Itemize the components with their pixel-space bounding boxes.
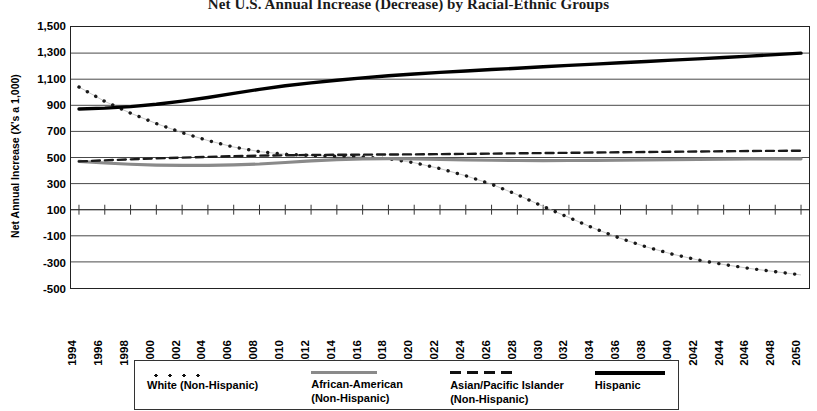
x-tick-label: 2016 xyxy=(355,296,369,354)
x-tick-label: 2014 xyxy=(330,296,344,354)
legend-label: White (Non-Hispanic) xyxy=(147,379,311,393)
series-canvas xyxy=(71,27,809,288)
y-tick-label: -500 xyxy=(18,283,66,295)
legend-label: Asian/Pacific Islander (Non-Hispanic) xyxy=(450,379,593,406)
x-tick-label: 2008 xyxy=(252,296,266,354)
legend-item-asian-pacific-islander: Asian/Pacific Islander (Non-Hispanic) xyxy=(450,368,593,406)
dashed-line-swatch-icon xyxy=(450,368,512,377)
legend-item-white: White (Non-Hispanic) xyxy=(147,368,311,393)
y-tick-label: 700 xyxy=(18,125,66,137)
x-axis-tick-labels: 1994199619982000200220042006200820102012… xyxy=(70,292,810,354)
x-tick-label: 2006 xyxy=(226,296,240,354)
x-tick-label: 2034 xyxy=(588,296,602,354)
y-tick-label: -100 xyxy=(18,230,66,242)
x-tick-label: 2038 xyxy=(640,296,654,354)
y-tick-label: 900 xyxy=(18,99,66,111)
x-tick-label: 2048 xyxy=(769,296,783,354)
series-guide-line xyxy=(79,87,801,275)
x-tick-label: 2010 xyxy=(278,296,292,354)
y-axis-tick-labels: 1,5001,3001,100900700500300100-100-300-5… xyxy=(18,21,66,289)
x-tick-label: 2030 xyxy=(536,296,550,354)
x-tick-label: 2040 xyxy=(666,296,680,354)
x-tick-label: 2036 xyxy=(614,296,628,354)
x-tick-label: 2002 xyxy=(174,296,188,354)
x-tick-label: 2022 xyxy=(433,296,447,354)
legend-label: African-American (Non-Hispanic) xyxy=(311,378,450,405)
series-line xyxy=(79,87,801,275)
y-tick-label: 300 xyxy=(18,178,66,190)
black-solid-line-swatch-icon xyxy=(595,371,665,375)
x-tick-label: 2028 xyxy=(511,296,525,354)
x-tick-label: 2046 xyxy=(743,296,757,354)
gray-solid-line-swatch-icon xyxy=(311,371,377,374)
chart-figure: Net U.S. Annual Increase (Decrease) by R… xyxy=(0,0,817,411)
x-tick-label: 1996 xyxy=(97,296,111,354)
x-tick-label: 2024 xyxy=(459,296,473,354)
x-tick-label: 2020 xyxy=(407,296,421,354)
y-tick-label: 1,300 xyxy=(18,46,66,58)
x-tick-label: 2012 xyxy=(304,296,318,354)
x-tick-label: 2050 xyxy=(795,296,809,354)
x-tick-label: 2018 xyxy=(381,296,395,354)
legend-item-african-american: African-American (Non-Hispanic) xyxy=(311,368,450,405)
y-tick-label: 100 xyxy=(18,204,66,216)
y-tick-label: 500 xyxy=(18,152,66,164)
x-tick-label: 2004 xyxy=(200,296,214,354)
x-tick-label: 1994 xyxy=(71,296,85,354)
plot-area xyxy=(70,26,810,289)
dotted-line-swatch-icon xyxy=(147,368,209,377)
series-line xyxy=(79,53,801,109)
y-tick-label: 1,500 xyxy=(18,20,66,32)
chart-legend: White (Non-Hispanic) African-American (N… xyxy=(134,360,679,410)
chart-title: Net U.S. Annual Increase (Decrease) by R… xyxy=(0,0,817,13)
legend-item-hispanic: Hispanic xyxy=(593,368,668,392)
x-tick-label: 2000 xyxy=(149,296,163,354)
x-tick-label: 2042 xyxy=(692,296,706,354)
x-tick-label: 2032 xyxy=(562,296,576,354)
legend-label: Hispanic xyxy=(595,379,668,393)
x-tick-label: 1998 xyxy=(123,296,137,354)
x-tick-label: 2044 xyxy=(717,296,731,354)
y-tick-label: 1,100 xyxy=(18,73,66,85)
x-tick-label: 2026 xyxy=(485,296,499,354)
series-line xyxy=(79,159,801,166)
y-tick-label: -300 xyxy=(18,257,66,269)
